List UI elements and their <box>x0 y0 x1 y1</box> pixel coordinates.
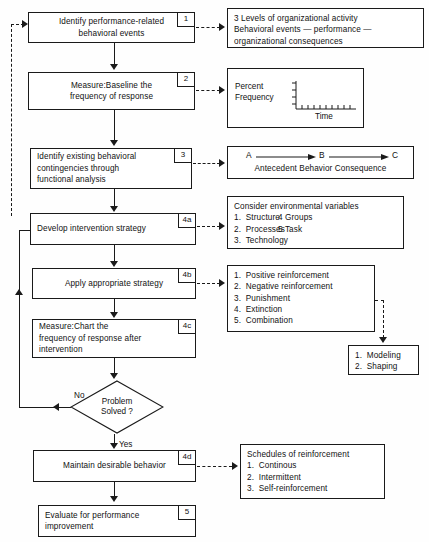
abc-nodes-row: A B C <box>234 150 407 163</box>
arrowhead-strategies-to-shaping <box>379 337 387 343</box>
abc-node-c: C <box>392 150 398 160</box>
panel-abc: A B C Antecedent Behavior Consequence <box>227 146 414 179</box>
arrowhead-1-to-panel-levels <box>219 23 225 31</box>
connector-1-to-2 <box>114 43 115 65</box>
connector-4c-to-decision <box>114 358 115 374</box>
env-item-4: 4 Groups <box>278 213 312 222</box>
process-box-1-label: Identify performance-related behavioral … <box>29 16 194 39</box>
edge-label-yes: Yes <box>119 440 132 450</box>
process-box-4b-tag: 4b <box>178 268 196 283</box>
process-box-4b[interactable]: Apply appropriate strategy 4b <box>32 268 196 299</box>
connector-2-to-3 <box>114 110 115 141</box>
process-box-5-tag: 5 <box>178 505 196 520</box>
arrowhead-2-to-panel-chart <box>219 86 225 94</box>
panel-levels-line-3: organizational consequences <box>234 36 417 47</box>
process-box-1[interactable]: Identify performance-related behavioral … <box>28 12 195 43</box>
arrowhead-4b-to-4c <box>110 312 118 318</box>
process-box-4c-label: Measure:Chart the frequency of response … <box>33 321 195 356</box>
process-box-2[interactable]: Measure:Baseline the frequency of respon… <box>28 72 195 110</box>
panel-levels-line-2: Behavioral events — performance — <box>234 24 417 35</box>
process-box-1-tag: 1 <box>177 12 195 27</box>
flowchart-canvas: Identify performance-related behavioral … <box>0 0 429 542</box>
strategy-item-5: 5. Combination <box>234 315 368 326</box>
arrowhead-feedback-no <box>53 403 59 411</box>
process-box-2-label: Measure:Baseline the frequency of respon… <box>29 80 194 103</box>
process-box-4a-tag: 4a <box>178 213 196 228</box>
arrowhead-2-to-3 <box>110 140 118 146</box>
process-box-4d-tag: 4d <box>178 450 196 465</box>
process-box-3-tag: 3 <box>174 148 192 163</box>
process-box-5[interactable]: Evaluate for performance improvement 5 <box>38 505 196 537</box>
panel-levels-line-1: 3 Levels of organizational activity <box>234 13 417 24</box>
feedback-no-horizontal <box>19 407 71 408</box>
panel-strategies: 1. Positive reinforcement 2. Negative re… <box>227 265 375 332</box>
arrowhead-feedback-no-up <box>15 289 23 295</box>
process-box-4a-label: Develop intervention strategy <box>31 223 195 235</box>
process-box-4b-label: Apply appropriate strategy <box>33 278 195 290</box>
arrowhead-4a-to-4b <box>110 261 118 267</box>
panel-environment-row-1: 1. Structure4 Groups <box>234 212 397 223</box>
process-box-3-label: Identify existing behavioral contingenci… <box>31 151 191 186</box>
strategy-item-1: 1. Positive reinforcement <box>234 270 368 281</box>
connector-3-to-panel-abc <box>193 163 220 164</box>
schedule-item-3: 3. Self-reinforcement <box>247 483 378 494</box>
feedback-no-vertical <box>19 230 20 408</box>
connector-4b-to-4c <box>114 299 115 313</box>
process-box-4d[interactable]: Maintain desirable behavior 4d <box>33 450 196 482</box>
arrowhead-4c-to-decision <box>110 373 118 379</box>
arrowhead-4d-to-5 <box>110 496 118 502</box>
panel-shaping: 1. Modeling 2. Shaping <box>348 345 419 375</box>
process-box-3[interactable]: Identify existing behavioral contingenci… <box>30 148 192 189</box>
connector-4b-to-panel-strategies <box>197 283 220 284</box>
process-box-4c-tag: 4c <box>178 319 196 334</box>
arrowhead-1-to-2 <box>110 64 118 70</box>
decision-problem-solved[interactable]: Problem Solved ? <box>70 380 164 434</box>
connector-4d-to-5 <box>114 482 115 497</box>
process-box-5-label: Evaluate for performance improvement <box>39 510 195 533</box>
panel-environment: Consider environmental variables 1. Stru… <box>227 196 404 249</box>
panel-levels: 3 Levels of organizational activity Beha… <box>227 8 424 48</box>
edge-label-no: No <box>74 391 84 401</box>
strategy-item-3: 3. Punishment <box>234 293 368 304</box>
arrowhead-feedback-dashed <box>22 20 28 28</box>
connector-2-to-panel-chart <box>196 90 220 91</box>
abc-caption: Antecedent Behavior Consequence <box>234 163 407 174</box>
process-box-4a[interactable]: Develop intervention strategy 4a <box>30 213 196 245</box>
env-item-3: 3. Technology <box>234 236 288 245</box>
panel-environment-row-2: 2. Processes5 Task <box>234 224 397 235</box>
connector-4a-to-panel-environment <box>197 226 220 227</box>
arrowhead-4b-to-panel-strategies <box>219 279 225 287</box>
process-box-4d-label: Maintain desirable behavior <box>34 460 195 472</box>
arrowhead-4d-to-panel-schedules <box>232 462 238 470</box>
panel-schedules-heading: Schedules of reinforcement <box>247 449 378 460</box>
panel-baseline-chart: Percent Frequency Time <box>227 68 364 128</box>
arrowhead-decision-to-4d <box>110 443 118 449</box>
shaping-item-1: 1. Modeling <box>355 350 412 361</box>
connector-4d-to-panel-schedules <box>197 466 232 467</box>
connector-strategies-to-shaping-v <box>383 300 384 338</box>
abc-node-a: A <box>246 150 252 160</box>
feedback-dashed-vertical <box>11 24 12 216</box>
arrowhead-4a-to-panel-environment <box>219 222 225 230</box>
schedule-item-1: 1. Continous <box>247 460 378 471</box>
panel-schedules: Schedules of reinforcement 1. Continous … <box>240 444 385 499</box>
arrowhead-3-to-panel-abc <box>219 159 225 167</box>
feedback-no-into-4a <box>19 230 31 231</box>
connector-1-to-panel-levels <box>196 27 220 28</box>
strategy-item-4: 4. Extinction <box>234 304 368 315</box>
panel-environment-heading: Consider environmental variables <box>234 201 397 212</box>
process-box-2-tag: 2 <box>177 72 195 87</box>
connector-4a-to-4b <box>114 245 115 262</box>
decision-label: Problem Solved ? <box>70 380 164 434</box>
connector-3-to-4a <box>114 189 115 207</box>
abc-node-b: B <box>319 150 325 160</box>
env-item-1: 1. Structure <box>234 212 278 223</box>
shaping-item-2: 2. Shaping <box>355 361 412 372</box>
env-item-5: 5 Task <box>278 225 302 234</box>
process-box-4c[interactable]: Measure:Chart the frequency of response … <box>32 319 196 358</box>
panel-environment-row-3: 3. Technology <box>234 235 397 246</box>
chart-y-axis-label: Percent Frequency <box>235 81 274 103</box>
chart-x-axis-label: Time <box>315 112 333 122</box>
strategy-item-2: 2. Negative reinforcement <box>234 281 368 292</box>
arrowhead-3-to-4a <box>110 206 118 212</box>
